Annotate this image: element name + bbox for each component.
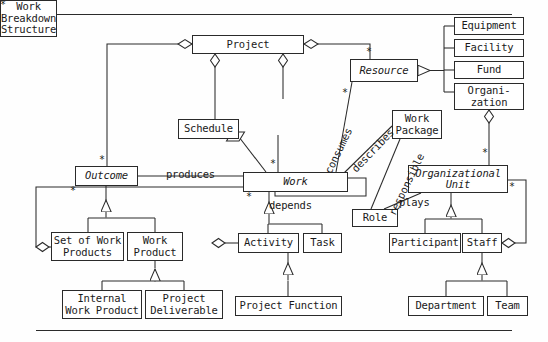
class-box-work-package[interactable]: Work Package bbox=[392, 110, 442, 139]
class-label-staff: Staff bbox=[467, 237, 498, 249]
diamond-work-outcome bbox=[36, 243, 49, 252]
diamond-orgunit-staff bbox=[502, 239, 515, 248]
class-label-organizational-unit: Organizational Unit bbox=[415, 168, 501, 191]
class-box-activity[interactable]: Activity bbox=[238, 233, 299, 253]
diamond-project-schedule bbox=[211, 54, 220, 67]
multiplicity-org-unit-top: * bbox=[482, 148, 488, 158]
class-label-activity: Activity bbox=[244, 237, 293, 249]
class-label-work-package: Work Package bbox=[396, 113, 439, 136]
class-box-fund[interactable]: Fund bbox=[454, 61, 524, 79]
multiplicity-resource-consumes: * bbox=[342, 88, 348, 98]
diamond-project-wbs bbox=[279, 54, 288, 67]
edge-schedule-work bbox=[239, 137, 266, 172]
class-label-internal-work-product: Internal Work Product bbox=[65, 293, 138, 316]
class-label-outcome: Outcome bbox=[85, 170, 128, 182]
class-box-work-product[interactable]: Work Product bbox=[127, 232, 183, 261]
class-box-internal-work-product[interactable]: Internal Work Product bbox=[62, 290, 142, 319]
multiplicity-wbs-work: * bbox=[270, 159, 276, 169]
class-label-role: Role bbox=[363, 212, 388, 224]
multiplicity-project-resource: * bbox=[366, 47, 372, 57]
class-label-set-of-work-products: Set of Work Products bbox=[54, 235, 121, 258]
class-label-fund: Fund bbox=[477, 64, 502, 76]
class-label-department: Department bbox=[415, 300, 476, 312]
multiplicity-work-package: * bbox=[0, 0, 6, 10]
multiplicity-outcome-top: * bbox=[99, 155, 105, 165]
class-box-set-of-work-products[interactable]: Set of Work Products bbox=[51, 232, 124, 261]
class-box-project-deliverable[interactable]: Project Deliverable bbox=[145, 290, 223, 319]
class-label-project: Project bbox=[227, 39, 270, 51]
edge-project-outcome bbox=[107, 44, 192, 166]
class-box-facility[interactable]: Facility bbox=[454, 39, 524, 57]
class-box-equipment[interactable]: Equipment bbox=[454, 17, 524, 35]
class-box-team[interactable]: Team bbox=[487, 296, 528, 316]
diamond-organization-orgunit bbox=[485, 110, 494, 123]
class-label-project-function: Project Function bbox=[240, 300, 338, 312]
class-label-facility: Facility bbox=[465, 42, 514, 54]
class-box-project-function[interactable]: Project Function bbox=[235, 296, 342, 316]
horizontal-rule-bottom bbox=[36, 330, 512, 331]
class-box-staff[interactable]: Staff bbox=[462, 233, 502, 253]
class-label-resource: Resource bbox=[360, 65, 409, 77]
class-label-task: Task bbox=[310, 237, 335, 249]
class-box-resource[interactable]: Resource bbox=[350, 59, 418, 82]
class-box-outcome[interactable]: Outcome bbox=[75, 166, 138, 186]
class-label-participant: Participant bbox=[391, 237, 458, 249]
class-label-work-product: Work Product bbox=[134, 235, 177, 258]
class-box-organizational-unit[interactable]: Organizational Unit bbox=[408, 165, 508, 193]
class-label-equipment: Equipment bbox=[461, 20, 516, 32]
multiplicity-org-unit-right: * bbox=[509, 182, 515, 192]
class-label-schedule: Schedule bbox=[184, 123, 233, 135]
association-label-produces: produces bbox=[166, 168, 215, 180]
diamond-project-resource bbox=[304, 40, 318, 49]
class-box-work-breakdown-structure[interactable]: Work Breakdown Structure bbox=[0, 0, 57, 37]
class-box-organization[interactable]: Organi- zation bbox=[454, 83, 524, 110]
class-label-organization: Organi- zation bbox=[468, 85, 511, 108]
diamond-project-outcome bbox=[178, 40, 192, 49]
diamond-activity-left bbox=[212, 239, 225, 248]
class-label-team: Team bbox=[495, 300, 520, 312]
horizontal-rule-top bbox=[36, 14, 512, 15]
multiplicity-outcome-left: * bbox=[70, 186, 76, 196]
class-box-schedule[interactable]: Schedule bbox=[178, 119, 239, 139]
class-label-work: Work bbox=[283, 176, 308, 188]
class-box-task[interactable]: Task bbox=[303, 233, 342, 253]
class-box-department[interactable]: Department bbox=[408, 296, 484, 316]
class-box-project[interactable]: Project bbox=[192, 35, 304, 54]
class-label-work-breakdown-structure: Work Breakdown Structure bbox=[1, 1, 56, 36]
uml-class-diagram: Project Equipment Facility Fund Organi- … bbox=[0, 0, 548, 342]
class-label-project-deliverable: Project Deliverable bbox=[150, 293, 217, 316]
class-box-participant[interactable]: Participant bbox=[389, 233, 461, 253]
multiplicity-work-left: * bbox=[246, 192, 252, 202]
association-label-depends: depends bbox=[269, 199, 312, 211]
